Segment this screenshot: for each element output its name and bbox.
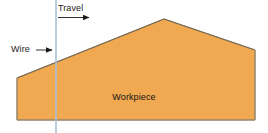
diagram-canvas (0, 0, 268, 133)
wire-label: Wire (11, 44, 30, 54)
workpiece-label: Workpiece (0, 92, 268, 102)
workpiece-shape (17, 19, 255, 120)
travel-label: Travel (58, 3, 83, 13)
wire-cutting-diagram: Travel Wire Workpiece (0, 0, 268, 133)
